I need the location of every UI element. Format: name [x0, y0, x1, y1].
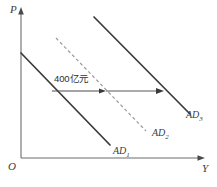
ad1-curve-label-subscript: 1 — [126, 151, 130, 159]
y-axis-label: P — [10, 4, 17, 15]
ad2-curve-label-subscript: 2 — [165, 133, 169, 141]
shift-amount-label: 400亿元 — [54, 74, 89, 84]
ad3-curve-label: AD3 — [186, 110, 203, 123]
ad3-curve — [94, 17, 190, 114]
ad3-curve-label-subscript: 3 — [199, 115, 203, 123]
ad2-curve — [56, 38, 146, 131]
ad2-curve-label-base: AD — [152, 127, 165, 138]
ad-shift-diagram: P Y O AD1 AD2 AD3 400亿元 — [0, 0, 217, 187]
ad2-curve-label: AD2 — [152, 128, 169, 141]
origin-label: O — [8, 161, 16, 172]
x-axis-label: Y — [202, 163, 208, 174]
ad1-curve-label: AD1 — [113, 146, 130, 159]
diagram-canvas — [0, 0, 217, 187]
ad1-curve — [21, 53, 110, 145]
ad3-curve-label-base: AD — [186, 109, 199, 120]
y-axis-arrowhead-icon — [18, 7, 24, 15]
x-axis-arrowhead-icon — [198, 155, 206, 161]
ad1-curve-label-base: AD — [113, 145, 126, 156]
shift-arrowhead-ad3-icon — [156, 88, 164, 94]
